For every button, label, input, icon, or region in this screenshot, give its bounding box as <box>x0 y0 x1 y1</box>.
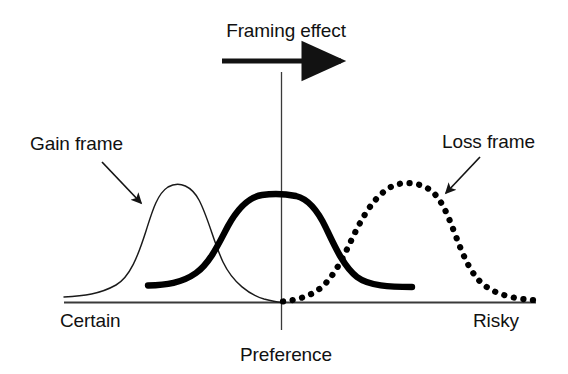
loss-frame-curve <box>283 183 533 302</box>
loss-frame-pointer-icon <box>446 157 480 193</box>
gain-frame-label: Gain frame <box>30 133 123 155</box>
diagram-title: Framing effect <box>2 20 568 42</box>
framing-effect-diagram: Framing effect Gain frame Loss frame Cer… <box>0 0 568 374</box>
x-axis-left-tick-label: Certain <box>60 310 121 332</box>
x-axis-right-tick-label: Risky <box>473 310 519 332</box>
gain-frame-pointer-icon <box>102 162 141 203</box>
loss-frame-label: Loss frame <box>442 131 535 153</box>
x-axis-title: Preference <box>2 344 568 366</box>
